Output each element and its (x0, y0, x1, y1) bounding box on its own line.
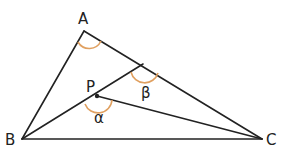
point-p-dot (95, 94, 99, 98)
angle-a-arc (78, 41, 101, 48)
label-b: B (5, 131, 15, 149)
segment-bd (22, 64, 143, 139)
label-a: A (78, 10, 89, 28)
label-p: P (86, 78, 95, 96)
segment-ab (22, 31, 84, 139)
label-alpha: α (94, 109, 104, 127)
label-c: C (266, 131, 276, 149)
label-beta: β (141, 84, 151, 102)
triangle-diagram: A B C P β α (0, 0, 281, 155)
segment-pc (97, 96, 262, 139)
segment-ac (84, 31, 262, 139)
